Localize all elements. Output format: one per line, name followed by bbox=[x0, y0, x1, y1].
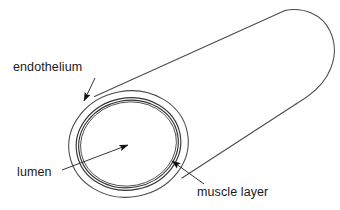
endothelium-leader-line bbox=[84, 78, 95, 101]
lumen-boundary bbox=[73, 94, 184, 195]
lumen-leader-line bbox=[62, 145, 128, 170]
tube-bottom-edge bbox=[182, 104, 296, 178]
vessel-tube-body bbox=[95, 10, 335, 178]
label-muscle-layer: muscle layer bbox=[197, 186, 268, 199]
label-lumen: lumen bbox=[17, 166, 52, 179]
diagram-canvas: endothelium lumen muscle layer bbox=[0, 0, 340, 210]
tube-end-cap bbox=[285, 10, 334, 104]
endothelium-lining bbox=[71, 92, 186, 197]
vessel-cross-section bbox=[59, 81, 197, 208]
label-endothelium: endothelium bbox=[13, 61, 82, 74]
muscle-layer-inner-wall bbox=[68, 89, 189, 199]
tube-top-edge bbox=[95, 11, 286, 97]
